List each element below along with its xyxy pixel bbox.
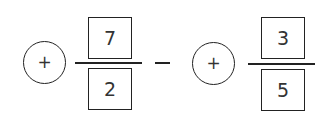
denominator-box-1[interactable]: 2 [88, 68, 132, 110]
denominator-1: 2 [104, 80, 116, 99]
denominator-box-2[interactable]: 5 [261, 69, 305, 111]
plus-sign-1: + [37, 54, 51, 71]
fraction-bar-2 [248, 63, 315, 65]
numerator-2: 3 [277, 29, 289, 48]
numerator-box-1[interactable]: 7 [88, 17, 132, 59]
sign-circle-1[interactable]: + [23, 41, 66, 84]
numerator-box-2[interactable]: 3 [261, 17, 305, 59]
fraction-bar-1 [75, 62, 142, 64]
denominator-2: 5 [277, 81, 289, 100]
plus-sign-2: + [206, 55, 220, 72]
numerator-1: 7 [104, 29, 116, 48]
minus-operator [155, 62, 170, 64]
sign-circle-2[interactable]: + [192, 42, 235, 85]
